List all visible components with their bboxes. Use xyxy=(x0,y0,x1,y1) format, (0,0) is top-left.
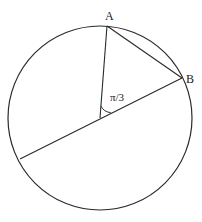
angle-arc xyxy=(101,106,111,113)
diameter-BC xyxy=(20,78,182,159)
diagram-canvas: A B π/3 xyxy=(0,0,202,222)
point-label-A: A xyxy=(105,9,114,23)
chord-AB xyxy=(107,26,182,78)
radius-OA xyxy=(100,26,107,118)
point-label-B: B xyxy=(186,72,194,86)
angle-label: π/3 xyxy=(110,91,125,103)
